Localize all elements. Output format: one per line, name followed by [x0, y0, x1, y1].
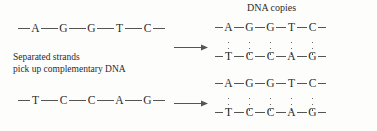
nucleotide-base: A	[286, 50, 297, 63]
backbone-bond	[255, 112, 265, 113]
nucleotide-base: T	[114, 22, 125, 34]
backbone-bond	[297, 27, 307, 28]
backbone-bond	[97, 28, 114, 29]
nucleotide-base: G	[307, 106, 318, 119]
backbone-bond	[125, 28, 142, 29]
strand-end-dash	[215, 27, 223, 28]
nucleotide-base: G	[307, 50, 318, 63]
backbone-bond	[276, 27, 286, 28]
backbone-bond	[297, 83, 307, 84]
backbone-bond	[41, 100, 58, 101]
hydrogen-bond-row	[223, 90, 318, 106]
backbone-bond	[234, 27, 244, 28]
nucleotide-base: C	[142, 22, 153, 34]
arrow-right-icon	[174, 43, 208, 52]
strand-end-dash	[318, 56, 326, 57]
dna-replication-diagram: DNA copies AGGTC Separated strands pick …	[0, 0, 377, 131]
nucleotide-base: C	[58, 94, 69, 106]
strand-end-dash	[215, 56, 223, 57]
backbone-bond	[297, 56, 307, 57]
strand-end-dash	[18, 100, 30, 101]
backbone-bond	[234, 112, 244, 113]
backbone-bond	[97, 100, 114, 101]
strand-end-dash	[153, 100, 165, 101]
backbone-bond	[234, 83, 244, 84]
nucleotide-base: G	[86, 22, 97, 34]
arrow-top	[174, 38, 208, 56]
backbone-bond	[69, 100, 86, 101]
nucleotide-base: A	[114, 94, 125, 106]
nucleotide-base: A	[286, 106, 297, 119]
nucleotide-base: C	[244, 50, 255, 63]
strand-end-dash	[18, 28, 30, 29]
nucleotide-base: C	[265, 50, 276, 63]
nucleotide-base: T	[223, 106, 234, 119]
caption-line-1: Separated strands	[13, 51, 80, 64]
nucleotide-base: G	[142, 94, 153, 106]
nucleotide-base: T	[223, 50, 234, 63]
backbone-bond	[276, 56, 286, 57]
duplex-bottom-strand: TCCAG	[215, 50, 326, 63]
hydrogen-bond-row	[223, 34, 318, 50]
strand-end-dash	[153, 28, 165, 29]
dna-copy-bottom: AGGTCTCCAG	[215, 77, 326, 119]
dna-copies-heading: DNA copies	[247, 2, 296, 13]
strand-end-dash	[318, 112, 326, 113]
strand-end-dash	[215, 83, 223, 84]
strand-end-dash	[318, 83, 326, 84]
backbone-bond	[41, 28, 58, 29]
template-strand-top: AGGTC	[18, 22, 165, 34]
backbone-bond	[255, 83, 265, 84]
nucleotide-base: C	[244, 106, 255, 119]
nucleotide-base: G	[58, 22, 69, 34]
nucleotide-base: C	[86, 94, 97, 106]
template-strand-bottom: TCCAG	[18, 94, 165, 106]
backbone-bond	[297, 112, 307, 113]
duplex-bottom-strand: TCCAG	[215, 106, 326, 119]
backbone-bond	[255, 27, 265, 28]
backbone-bond	[255, 56, 265, 57]
nucleotide-base: A	[30, 22, 41, 34]
backbone-bond	[276, 83, 286, 84]
arrow-bottom	[174, 94, 208, 112]
backbone-bond	[276, 112, 286, 113]
nucleotide-base: T	[30, 94, 41, 106]
backbone-bond	[234, 56, 244, 57]
caption-line-2: pick up complementary DNA	[13, 63, 126, 76]
nucleotide-base: C	[265, 106, 276, 119]
strand-end-dash	[318, 27, 326, 28]
arrow-right-icon	[174, 99, 208, 108]
dna-copy-top: AGGTCTCCAG	[215, 21, 326, 63]
backbone-bond	[69, 28, 86, 29]
strand-end-dash	[215, 112, 223, 113]
backbone-bond	[125, 100, 142, 101]
